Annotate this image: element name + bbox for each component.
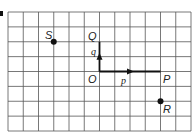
- label-r-point: R: [163, 103, 171, 115]
- label-q-point: Q: [88, 30, 97, 42]
- part-label-marker: [0, 11, 3, 16]
- label-s-point: S: [45, 29, 53, 41]
- label-p-vector: p: [120, 75, 126, 86]
- vectors: [97, 42, 161, 75]
- label-q-vector: q: [91, 46, 96, 57]
- arrow-head-icon: [97, 53, 103, 60]
- vector-grid-diagram: Q q O p P S R: [0, 0, 193, 137]
- label-p-point: P: [163, 73, 171, 85]
- label-o-point: O: [88, 73, 97, 85]
- arrow-head-icon: [127, 69, 134, 75]
